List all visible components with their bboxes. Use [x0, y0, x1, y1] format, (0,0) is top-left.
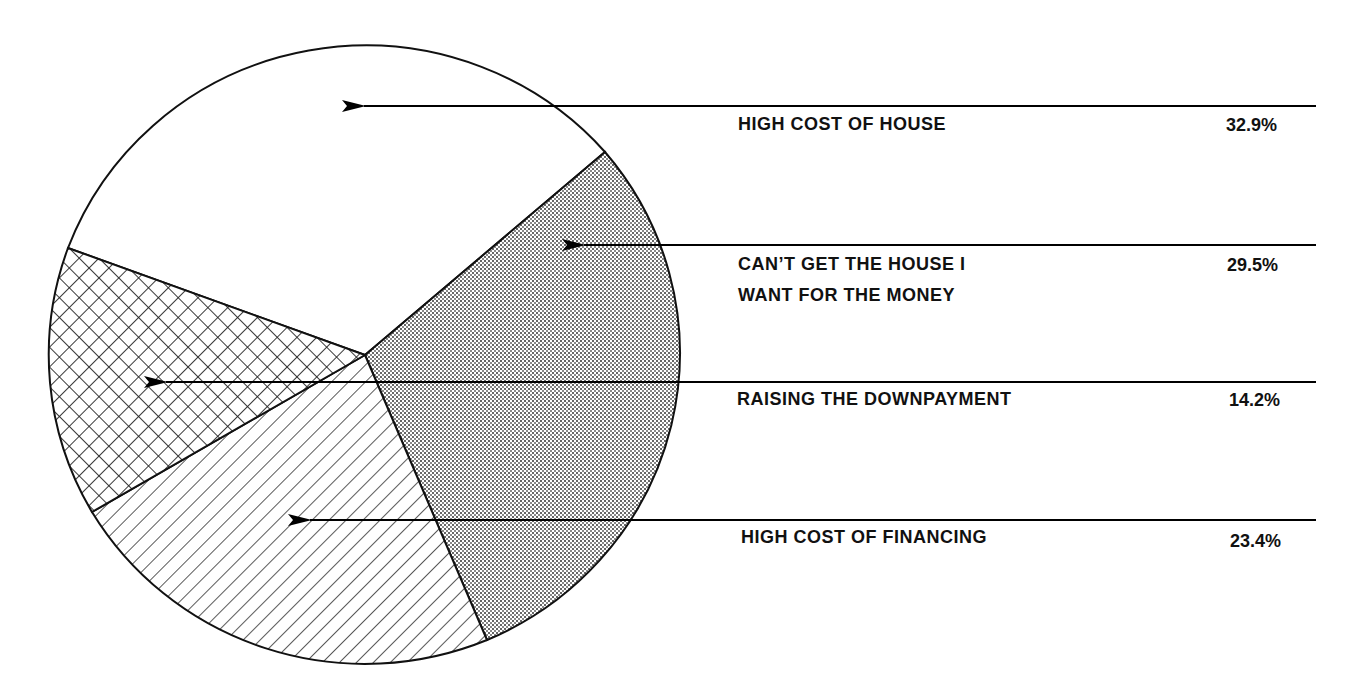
legend-label-cant-get: CAN’T GET THE HOUSE I WANT FOR THE MONEY [738, 249, 966, 311]
pie-chart [0, 0, 1360, 689]
legend-label-line: RAISING THE DOWNPAYMENT [737, 384, 1012, 415]
legend-label-financing: HIGH COST OF FINANCING [741, 522, 987, 553]
legend-label-line: WANT FOR THE MONEY [738, 280, 966, 311]
legend-pct-house: 32.9% [1226, 115, 1277, 136]
legend-label-line: HIGH COST OF FINANCING [741, 522, 987, 553]
legend-label-line: HIGH COST OF HOUSE [738, 109, 946, 140]
legend-pct-downpayment: 14.2% [1229, 390, 1280, 411]
legend-label-house: HIGH COST OF HOUSE [738, 109, 946, 140]
legend-pct-financing: 23.4% [1230, 531, 1281, 552]
legend-label-line: CAN’T GET THE HOUSE I [738, 249, 966, 280]
legend-label-downpayment: RAISING THE DOWNPAYMENT [737, 384, 1012, 415]
legend-pct-cant-get: 29.5% [1227, 255, 1278, 276]
